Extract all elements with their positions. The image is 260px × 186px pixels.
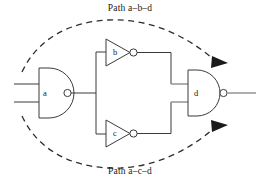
path-a-c-d-arrowhead [211, 120, 228, 132]
circuit-svg-canvas: a b c d [0, 0, 260, 186]
gate-a-label: a [43, 88, 47, 98]
path-label-bottom: Path a–c–d [0, 166, 260, 176]
gate-b-label: b [113, 47, 117, 57]
gate-b-body [106, 39, 130, 66]
gate-c-label: c [113, 128, 117, 138]
gate-b-output-bubble [130, 49, 137, 56]
logic-circuit-diagram: a b c d Path a–b–d Path a–c–d [0, 0, 260, 186]
gate-d-output-bubble [220, 89, 227, 96]
path-label-top: Path a–b–d [0, 3, 260, 13]
gate-a-output-bubble [64, 89, 71, 96]
path-a-c-d-curve [22, 116, 212, 168]
path-a-b-d-arrowhead [211, 56, 228, 68]
gate-d-body [188, 70, 220, 116]
gate-c-body [106, 120, 130, 147]
gate-c-output-bubble [130, 130, 137, 137]
